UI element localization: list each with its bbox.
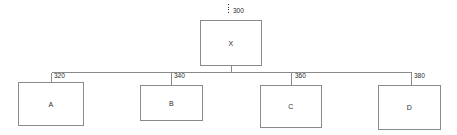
patent-tree-diagram: X 300 A 320 B 340 C 360 D 380 [0,0,457,135]
reference-numeral-360: 360 [295,73,306,80]
reference-numeral-340: 340 [174,73,185,80]
node-label-a: A [49,101,54,108]
reference-numeral-320: 320 [54,73,65,80]
node-box-x: X [200,20,262,66]
node-box-b: B [140,85,203,121]
reference-numeral-380: 380 [414,73,425,80]
node-box-d: D [378,85,441,130]
node-box-c: C [260,85,322,128]
node-label-d: D [407,104,412,111]
node-box-a: A [18,82,84,126]
reference-numeral-300: 300 [233,8,244,15]
node-label-x: X [229,40,234,47]
node-label-b: B [169,100,174,107]
node-label-c: C [288,103,293,110]
